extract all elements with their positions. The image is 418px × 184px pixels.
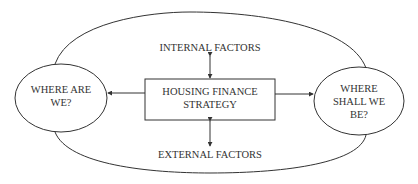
housing-finance-strategy-diagram: INTERNAL FACTORS EXTERNAL FACTORS HOUSIN… (0, 0, 418, 184)
where-shall-we-be-line-2: SHALL WE (319, 95, 399, 108)
center-box-label: HOUSING FINANCE STRATEGY (145, 85, 275, 111)
where-are-we-label: WHERE ARE WE? (21, 83, 101, 109)
where-are-we-line-2: WE? (21, 96, 101, 109)
where-shall-we-be-label: WHERE SHALL WE BE? (319, 82, 399, 121)
where-shall-we-be-line-1: WHERE (319, 82, 399, 95)
where-are-we-line-1: WHERE ARE (21, 83, 101, 96)
external-factors-label: EXTERNAL FACTORS (150, 148, 270, 161)
where-shall-we-be-line-3: BE? (319, 108, 399, 121)
center-box-line-1: HOUSING FINANCE (145, 85, 275, 98)
center-box-line-2: STRATEGY (145, 98, 275, 111)
internal-factors-label: INTERNAL FACTORS (150, 41, 270, 54)
